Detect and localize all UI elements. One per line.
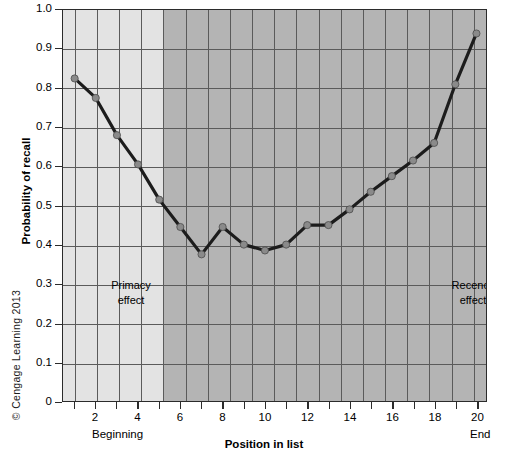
annotation-recency-line1: Recency	[433, 278, 487, 293]
data-point	[261, 247, 268, 254]
y-tick-label: 0.7	[14, 120, 52, 132]
x-tick	[159, 402, 160, 409]
y-tick-label: 0	[14, 395, 52, 407]
x-tick	[435, 402, 436, 409]
data-point	[346, 206, 353, 213]
data-line	[75, 33, 477, 254]
x-tick-label: 2	[80, 411, 110, 423]
x-tick-label: 20	[462, 411, 492, 423]
x-tick-label: 18	[420, 411, 450, 423]
x-tick	[244, 402, 245, 409]
annotation-recency-line2: effect	[433, 293, 487, 308]
x-tick	[116, 402, 117, 409]
data-point	[325, 222, 332, 229]
annotation-primacy: Primacy effect	[91, 278, 171, 308]
serial-position-curve	[63, 10, 486, 401]
copyright-notice: © Cengage Learning 2013	[10, 280, 22, 430]
annotation-recency: Recency effect	[433, 278, 487, 308]
annotation-primacy-line1: Primacy	[91, 278, 171, 293]
data-point	[92, 94, 99, 101]
x-tick	[137, 402, 138, 409]
y-tick-label: 0.8	[14, 81, 52, 93]
data-point	[240, 241, 247, 248]
data-point	[367, 188, 374, 195]
x-axis-title: Position in list	[0, 438, 528, 450]
x-tick-label: 10	[250, 411, 280, 423]
y-tick-label: 0.5	[14, 199, 52, 211]
y-tick-label: 0.1	[14, 356, 52, 368]
x-tick	[392, 402, 393, 409]
data-point	[452, 81, 459, 88]
x-tick	[329, 402, 330, 409]
data-point	[283, 241, 290, 248]
x-tick-label: 4	[122, 411, 152, 423]
x-tick	[371, 402, 372, 409]
y-tick-label: 0.2	[14, 317, 52, 329]
x-tick-label: 16	[377, 411, 407, 423]
x-tick-label: 6	[165, 411, 195, 423]
x-tick	[222, 402, 223, 409]
data-point	[198, 251, 205, 258]
y-tick-label: 1.0	[14, 2, 52, 14]
data-point	[388, 173, 395, 180]
x-tick	[286, 402, 287, 409]
x-tick	[265, 402, 266, 409]
data-point	[156, 196, 163, 203]
x-tick	[477, 402, 478, 409]
data-point	[304, 222, 311, 229]
plot-area: Primacy effect Recency effect	[62, 9, 487, 402]
y-tick-label: 0.6	[14, 159, 52, 171]
data-point	[71, 75, 78, 82]
x-tick	[180, 402, 181, 409]
data-point	[431, 139, 438, 146]
data-point	[409, 157, 416, 164]
data-point	[134, 161, 141, 168]
x-tick	[350, 402, 351, 409]
data-point	[113, 132, 120, 139]
data-point	[473, 30, 480, 37]
x-tick-label: 8	[207, 411, 237, 423]
x-tick	[201, 402, 202, 409]
x-tick-label: 12	[292, 411, 322, 423]
x-tick	[95, 402, 96, 409]
figure-root: © Cengage Learning 2013 Probability of r…	[0, 0, 528, 456]
x-tick	[74, 402, 75, 409]
annotation-primacy-line2: effect	[91, 293, 171, 308]
data-point	[219, 223, 226, 230]
data-markers	[71, 30, 480, 258]
y-tick-label: 0.9	[14, 41, 52, 53]
x-tick	[307, 402, 308, 409]
y-tick-label: 0.3	[14, 277, 52, 289]
x-tick	[414, 402, 415, 409]
y-tick-label: 0.4	[14, 238, 52, 250]
data-point	[177, 223, 184, 230]
x-tick	[456, 402, 457, 409]
x-tick-label: 14	[335, 411, 365, 423]
